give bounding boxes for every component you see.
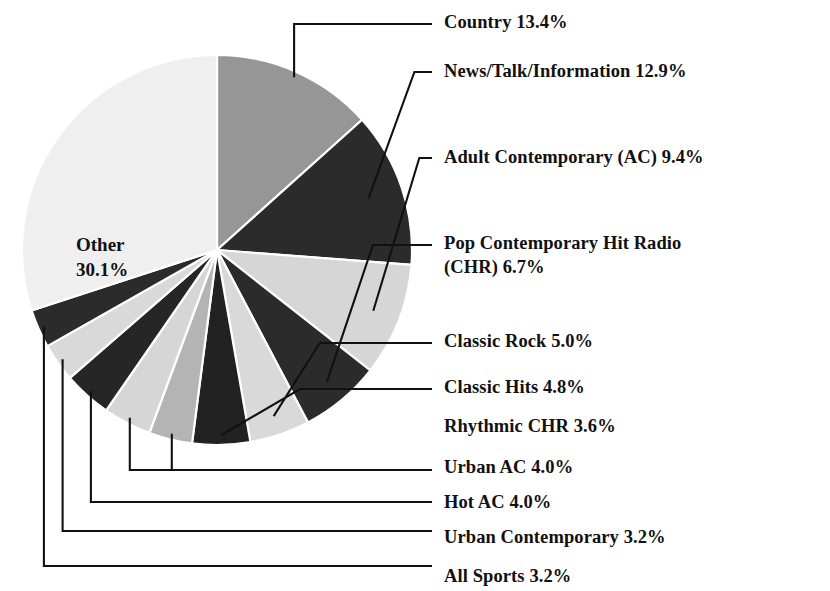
callout-label-adult-contemporary-ac: Adult Contemporary (AC) 9.4% (444, 146, 704, 170)
callout-label-news-talk-information: News/Talk/Information 12.9% (444, 60, 687, 84)
slice-inline-label-value: 30.1% (76, 258, 128, 283)
callout-label-hot-ac: Hot AC 4.0% (444, 491, 551, 515)
slice-inline-label-name: Other (76, 233, 128, 258)
callout-label-pop-contemporary-hit-radio-chr: Pop Contemporary Hit Radio (CHR) 6.7% (444, 232, 704, 279)
callout-label-urban-ac: Urban AC 4.0% (444, 456, 573, 480)
callout-label-urban-contemporary: Urban Contemporary 3.2% (444, 526, 666, 550)
callout-label-classic-rock: Classic Rock 5.0% (444, 330, 593, 354)
pie-chart-canvas (0, 0, 830, 591)
callout-label-rhythmic-chr: Rhythmic CHR 3.6% (444, 415, 616, 439)
pie-chart-figure: Other 30.1% Country 13.4%News/Talk/Infor… (0, 0, 830, 591)
callout-label-classic-hits: Classic Hits 4.8% (444, 376, 585, 400)
leader-line (294, 24, 432, 77)
callout-label-all-sports: All Sports 3.2% (444, 565, 571, 589)
slice-inline-label-other: Other 30.1% (76, 233, 128, 282)
callout-label-country: Country 13.4% (444, 11, 568, 35)
